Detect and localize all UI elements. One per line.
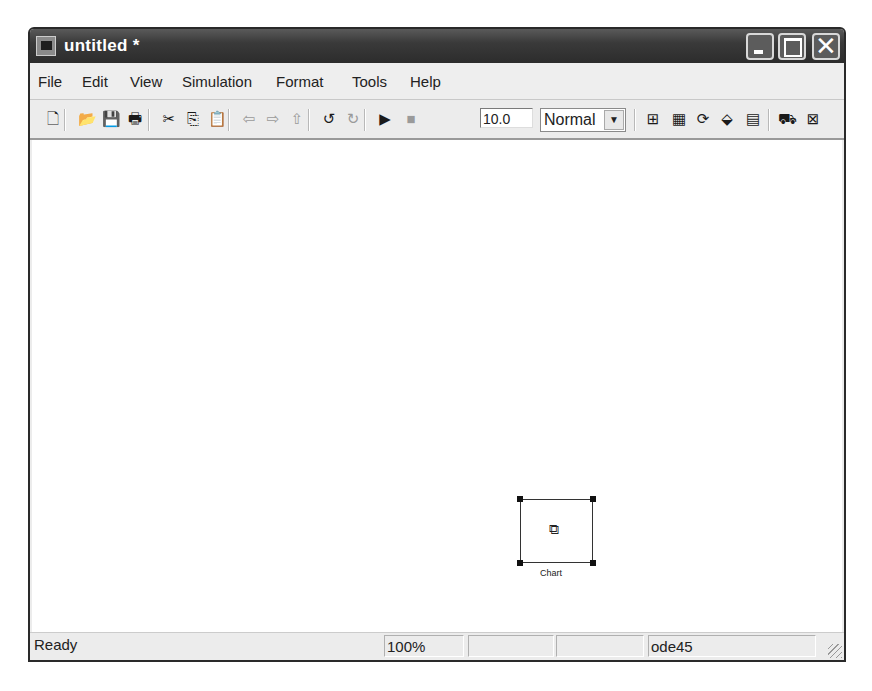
menu-view[interactable]: View xyxy=(130,73,162,90)
menu-simulation[interactable]: Simulation xyxy=(182,73,252,90)
toolbar-separator xyxy=(228,109,230,131)
window-title: untitled * xyxy=(64,36,140,56)
chart-block[interactable]: ⧉ xyxy=(520,499,593,563)
toolbar-separator xyxy=(768,109,770,131)
toolbar-separator xyxy=(634,109,636,131)
paste-icon[interactable]: 📋 xyxy=(208,110,226,128)
refresh-icon[interactable]: ⟳ xyxy=(694,110,712,128)
minimize-button[interactable] xyxy=(746,33,774,60)
resize-handle-top-right[interactable] xyxy=(590,496,596,502)
status-text: Ready xyxy=(34,636,77,653)
copy-icon[interactable]: ⎘ xyxy=(184,110,202,128)
redo-icon[interactable]: ↻ xyxy=(344,110,362,128)
cut-icon[interactable]: ✂ xyxy=(160,110,178,128)
model-window-icon xyxy=(36,36,56,56)
save-icon[interactable]: 💾 xyxy=(102,110,120,128)
back-icon[interactable]: ⇦ xyxy=(240,110,258,128)
model-advisor-icon[interactable]: ⊠ xyxy=(804,110,822,128)
resize-grip[interactable] xyxy=(828,644,842,658)
debugger-icon[interactable]: ⛟ xyxy=(778,110,796,128)
model-canvas[interactable]: ⧉ Chart xyxy=(32,140,842,634)
toolbar-separator xyxy=(148,109,150,131)
up-icon[interactable]: ⇧ xyxy=(288,110,306,128)
chart-block-label[interactable]: Chart xyxy=(540,568,562,578)
new-model-icon[interactable]: 🗋 xyxy=(44,110,62,128)
menu-file[interactable]: File xyxy=(38,73,62,90)
simulation-mode-value: Normal xyxy=(544,111,596,128)
stop-simulation-icon[interactable]: ■ xyxy=(402,110,420,128)
resize-handle-bottom-left[interactable] xyxy=(517,560,523,566)
forward-icon[interactable]: ⇨ xyxy=(264,110,282,128)
toolbar-separator xyxy=(364,109,366,131)
build-icon[interactable]: ⊞ xyxy=(644,110,662,128)
update-diagram-icon[interactable]: ▦ xyxy=(670,110,688,128)
library-browser-icon[interactable]: ⬙ xyxy=(718,110,736,128)
menu-tools[interactable]: Tools xyxy=(352,73,387,90)
toolbar-separator xyxy=(64,109,66,131)
resize-handle-bottom-right[interactable] xyxy=(590,560,596,566)
maximize-button[interactable] xyxy=(778,33,806,60)
zoom-level: 100% xyxy=(384,635,464,657)
open-icon[interactable]: 📂 xyxy=(78,110,96,128)
stateflow-chart-icon: ⧉ xyxy=(549,521,559,538)
chevron-down-icon[interactable]: ▼ xyxy=(604,110,624,130)
status-cell-empty-1 xyxy=(468,635,554,657)
solver-name: ode45 xyxy=(648,635,816,657)
title-bar[interactable]: untitled * ✕ xyxy=(30,29,844,63)
simulation-mode-select[interactable]: Normal ▼ xyxy=(540,108,626,132)
stop-time-input[interactable]: 10.0 xyxy=(480,108,533,128)
simulink-model-window: untitled * ✕ FileEditViewSimulationForma… xyxy=(28,27,846,662)
toolbar: 10.0 Normal ▼ 🗋📂💾🖶✂⎘📋⇦⇨⇧↺↻▶■⊞▦⟳⬙▤⛟⊠ xyxy=(30,100,844,140)
toolbar-separator xyxy=(308,109,310,131)
model-explorer-icon[interactable]: ▤ xyxy=(744,110,762,128)
resize-handle-top-left[interactable] xyxy=(517,496,523,502)
print-icon[interactable]: 🖶 xyxy=(126,110,144,128)
status-cell-empty-2 xyxy=(556,635,644,657)
close-button[interactable]: ✕ xyxy=(812,33,840,60)
undo-icon[interactable]: ↺ xyxy=(320,110,338,128)
menu-format[interactable]: Format xyxy=(276,73,324,90)
menu-edit[interactable]: Edit xyxy=(82,73,108,90)
menu-help[interactable]: Help xyxy=(410,73,441,90)
start-simulation-icon[interactable]: ▶ xyxy=(376,110,394,128)
menu-bar: FileEditViewSimulationFormatToolsHelp xyxy=(30,63,844,100)
status-bar: Ready 100% ode45 xyxy=(30,632,844,660)
